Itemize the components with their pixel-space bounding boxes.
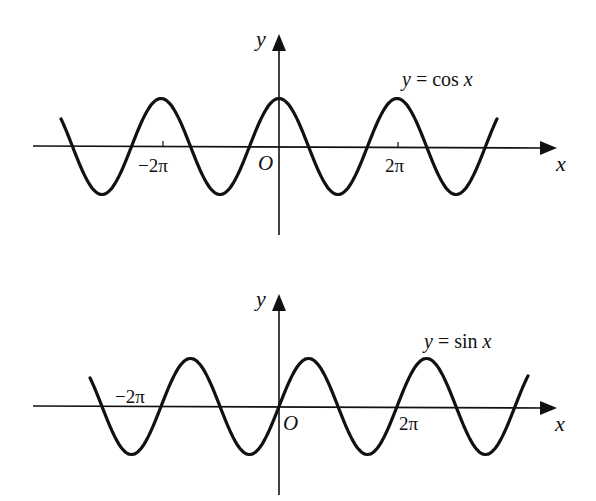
equation-equals: =	[433, 330, 454, 352]
equation-lhs: y	[402, 68, 411, 90]
x-axis-label: x	[556, 153, 566, 175]
equation-equals: =	[411, 68, 432, 90]
y-axis-arrow-icon	[272, 34, 286, 51]
tick-label-neg-2pi: −2π	[115, 387, 145, 406]
y-axis-label: y	[256, 288, 266, 310]
equation-label: y = sin x	[424, 331, 491, 351]
tick-label-neg-2pi: −2π	[138, 156, 168, 175]
x-axis-arrow-icon	[540, 141, 557, 155]
x-axis	[33, 406, 545, 408]
equation-var: x	[483, 330, 492, 352]
x-axis-label: x	[555, 413, 565, 435]
origin-label: O	[258, 153, 273, 174]
origin-label: O	[283, 413, 298, 434]
equation-fn: cos	[432, 68, 464, 90]
x-axis	[33, 146, 545, 148]
equation-fn: sin	[454, 330, 482, 352]
cos-plot-canvas	[0, 0, 596, 250]
equation-label: y = cos x	[402, 69, 473, 89]
equation-var: x	[464, 68, 473, 90]
tick-label-pos-2pi: 2π	[385, 156, 404, 175]
y-axis-arrow-icon	[272, 294, 286, 311]
y-axis-label: y	[256, 28, 266, 50]
equation-lhs: y	[424, 330, 433, 352]
cos-graph: y x O −2π 2π y = cos x	[0, 0, 596, 250]
sin-plot-canvas	[0, 250, 596, 501]
tick-label-pos-2pi: 2π	[399, 414, 418, 433]
sin-graph: y x O −2π 2π y = sin x	[0, 250, 596, 501]
